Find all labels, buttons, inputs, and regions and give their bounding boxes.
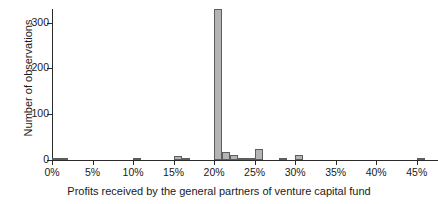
bar [417,158,425,160]
bar [222,152,230,160]
x-tick-label: 45% [406,166,427,179]
bar [182,158,190,160]
x-tick-label: 10% [123,166,144,179]
bar [174,156,182,160]
x-axis-title: Profits received by the general partners… [0,185,438,197]
bar [230,155,238,160]
x-tick-mark [52,161,53,165]
bar [133,158,141,160]
y-tick-label: 0 [43,153,49,166]
bar [247,158,255,160]
x-tick-mark [93,161,94,165]
bar [52,158,60,160]
y-tick-label: 300 [31,16,49,29]
y-tick-label: 100 [31,107,49,120]
x-tick-label: 25% [244,166,265,179]
plot-area: 0100200300 [52,9,437,160]
bar [214,9,222,160]
histogram-chart: Number of observations 0100200300 0%5%10… [0,0,438,204]
x-tick-label: 15% [163,166,184,179]
x-tick-label: 0% [44,166,59,179]
x-tick-mark [214,161,215,165]
x-tick-label: 40% [366,166,387,179]
x-tick-mark [336,161,337,165]
x-tick-label: 35% [325,166,346,179]
x-tick-mark [255,161,256,165]
y-tick-label: 200 [31,61,49,74]
x-tick-mark [417,161,418,165]
bar [255,149,263,160]
bar [295,155,303,160]
x-tick-mark [295,161,296,165]
bar [60,158,68,160]
x-tick-mark [376,161,377,165]
x-tick-label: 20% [204,166,225,179]
bar [279,158,287,160]
x-axis-line [52,160,438,161]
bar [238,158,246,160]
x-tick-mark [133,161,134,165]
x-tick-label: 30% [285,166,306,179]
x-tick-label: 5% [85,166,100,179]
x-tick-mark [174,161,175,165]
